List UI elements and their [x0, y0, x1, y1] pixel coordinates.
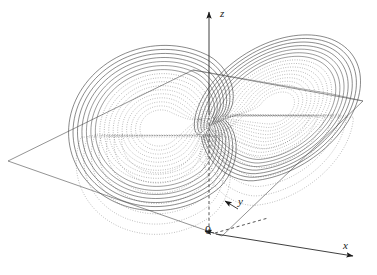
origin-label: 0: [205, 224, 211, 236]
trajectory-loop: [109, 82, 208, 175]
trajectory-skirt: [208, 114, 339, 186]
trajectory-skirt: [76, 137, 230, 234]
trajectory-loop: [122, 94, 202, 162]
x-axis-solid: [216, 234, 353, 256]
trajectory-loop: [127, 98, 202, 158]
y-axis-label: y: [238, 196, 243, 207]
trajectory-loop: [113, 86, 205, 171]
trajectory-loop: [140, 110, 200, 146]
trajectory-loop: [100, 74, 213, 183]
trajectory-loop: [69, 45, 237, 210]
trajectory-loop: [136, 106, 201, 150]
attractor-trajectory: [69, 35, 361, 234]
z-axis-label: z: [220, 8, 224, 19]
lorenz-attractor-figure: z y x 0: [0, 0, 377, 275]
trajectory-loop: [118, 90, 204, 167]
trajectory-loop: [131, 102, 201, 154]
trajectory-loop: [86, 62, 222, 195]
trajectory-skirt: [205, 115, 346, 196]
trajectory-skirt: [122, 134, 201, 173]
trajectory-loop: [104, 78, 210, 179]
trajectory-skirt: [107, 135, 209, 193]
y-axis-arrow: [225, 201, 238, 209]
figure-canvas: [0, 0, 377, 275]
x-axis-label: x: [343, 240, 348, 251]
y-axis-dashed: [215, 218, 268, 233]
